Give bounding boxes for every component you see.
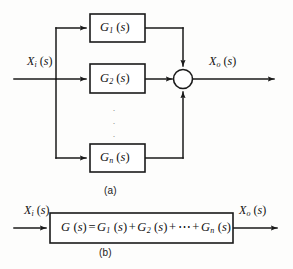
output-label-b: Xo (s) bbox=[239, 204, 266, 218]
summing-junction-icon[interactable] bbox=[174, 70, 193, 89]
figure-canvas: Xi (s) Xo (s) G1 (s) G2 (s) Gn (s) · · ·… bbox=[0, 0, 293, 269]
block-g1-label: G1 (s) bbox=[100, 21, 130, 35]
transfer-function-equation: G (s)=G1 (s)+G2 (s)+⋯+Gn (s) bbox=[61, 221, 231, 235]
vertical-ellipsis: · · · bbox=[110, 104, 118, 143]
output-label-a: Xo (s) bbox=[209, 55, 236, 69]
input-label-b: Xi (s) bbox=[24, 204, 49, 218]
ellipsis-dot-3: · bbox=[110, 130, 118, 143]
caption-a: (a) bbox=[104, 186, 117, 196]
ellipsis-dot-2: · bbox=[110, 117, 118, 130]
block-gn-label: Gn (s) bbox=[100, 151, 130, 165]
block-g2-label: G2 (s) bbox=[100, 72, 130, 86]
input-label-a: Xi (s) bbox=[27, 55, 52, 69]
ellipsis-dot-1: · bbox=[110, 104, 118, 117]
caption-b: (b) bbox=[99, 248, 112, 258]
